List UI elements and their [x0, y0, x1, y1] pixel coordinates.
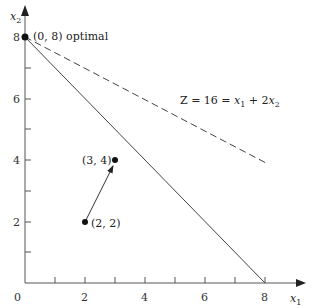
- y-tick-label-8: 8: [13, 31, 20, 44]
- y-tick-label-6: 6: [13, 93, 20, 106]
- y-axis: [21, 5, 29, 283]
- point-3-4: [112, 157, 118, 163]
- x-axis-arrow-icon: [296, 279, 306, 287]
- constraint-line: [25, 37, 265, 283]
- y-tick-label-2: 2: [13, 216, 20, 229]
- x-axis: [25, 279, 306, 287]
- point-2-2: [82, 219, 88, 225]
- y-axis-label: x2: [10, 10, 21, 25]
- y-tick-label-4: 4: [13, 154, 20, 167]
- x-tick-label-2: 2: [81, 291, 88, 304]
- x-axis-label: x1: [290, 292, 301, 307]
- label-3-4: (3, 4): [82, 154, 112, 167]
- x-tick-label-0: 0: [14, 291, 21, 304]
- label-2-2: (2, 2): [91, 217, 121, 230]
- x-tick-label-4: 4: [141, 291, 148, 304]
- point-optimal: [22, 34, 29, 41]
- label-optimal: (0, 8) optimal: [33, 30, 109, 43]
- improving-direction-arrow: [85, 166, 113, 222]
- lp-chart: 0 2 4 6 8 2 4 6 8 x1 x2 (0, 8) optimal (…: [0, 0, 312, 308]
- y-axis-arrow-icon: [21, 5, 29, 16]
- x-tick-label-8: 8: [261, 291, 268, 304]
- objective-label: Z = 16 = x1 + 2x2: [180, 94, 280, 109]
- y-ticks: [25, 68, 31, 252]
- x-tick-label-6: 6: [201, 291, 208, 304]
- x-ticks: [55, 277, 265, 283]
